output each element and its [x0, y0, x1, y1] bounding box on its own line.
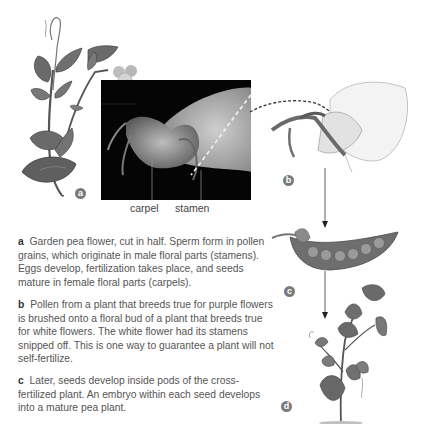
panel-label-d: d — [281, 401, 292, 412]
caption-c-letter: c — [18, 375, 24, 386]
caption-a-text: Garden pea flower, cut in half. Sperm fo… — [18, 236, 264, 288]
caption-a-letter: a — [18, 236, 24, 247]
caption-b: b Pollen from a plant that breeds true f… — [18, 298, 274, 366]
caption-c: c Later, seeds develop inside pods of th… — [18, 374, 274, 415]
panel-label-a: a — [75, 188, 86, 199]
caption-b-text: Pollen from a plant that breeds true for… — [18, 299, 274, 364]
caption-b-letter: b — [18, 299, 24, 310]
caption-c-text: Later, seeds develop inside pods of the … — [18, 375, 260, 413]
caption-a: a Garden pea flower, cut in half. Sperm … — [18, 235, 274, 289]
panel-label-b: b — [283, 175, 294, 186]
panel-label-c: c — [284, 286, 295, 297]
